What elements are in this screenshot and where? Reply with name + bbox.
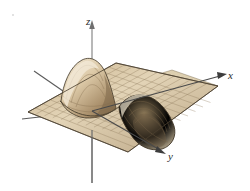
surface-plot-canvas (0, 0, 250, 191)
y-axis-label: y (168, 151, 173, 162)
surface-mesh (28, 58, 218, 152)
x-axis-arrowhead (217, 72, 227, 79)
scan-artifact-speck (12, 14, 14, 16)
x-axis-label: x (228, 70, 233, 81)
z-axis-label: z (86, 16, 90, 27)
surface-plot-figure: z x y (0, 0, 250, 191)
